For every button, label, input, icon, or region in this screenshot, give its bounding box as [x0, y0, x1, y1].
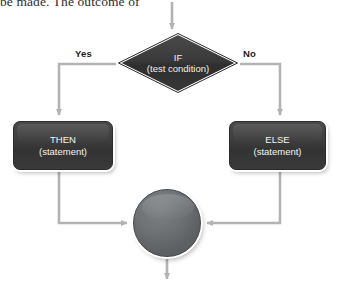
diamond-shape — [116, 31, 240, 95]
flowchart-diagram: be made. The outcome of Yes No — [0, 0, 343, 285]
edge-label-no: No — [243, 48, 256, 59]
edge-else-to-merge — [207, 171, 280, 223]
node-merge-connector[interactable] — [133, 189, 201, 257]
node-else-subtitle: (statement) — [253, 146, 301, 158]
node-decision-if[interactable]: IF (test condition) — [116, 31, 240, 95]
node-then-statement[interactable]: THEN (statement) — [13, 121, 113, 170]
edge-then-to-merge — [59, 171, 127, 223]
node-then-subtitle: (statement) — [39, 146, 87, 158]
node-else-statement[interactable]: ELSE (statement) — [229, 121, 326, 170]
edge-decision-to-then — [59, 64, 116, 115]
node-else-title: ELSE — [265, 134, 289, 146]
edge-label-yes: Yes — [75, 48, 92, 59]
edge-decision-to-else — [240, 64, 280, 115]
node-then-title: THEN — [50, 134, 76, 146]
